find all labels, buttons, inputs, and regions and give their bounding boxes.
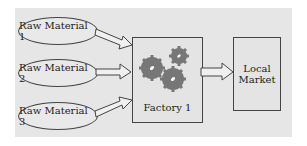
gears-icon: [139, 46, 189, 92]
flow-arrows: [0, 0, 307, 146]
arrow-icon: [201, 63, 233, 80]
arrow-icon: [96, 64, 131, 79]
arrow-icon: [95, 97, 132, 117]
arrow-icon: [95, 29, 132, 49]
